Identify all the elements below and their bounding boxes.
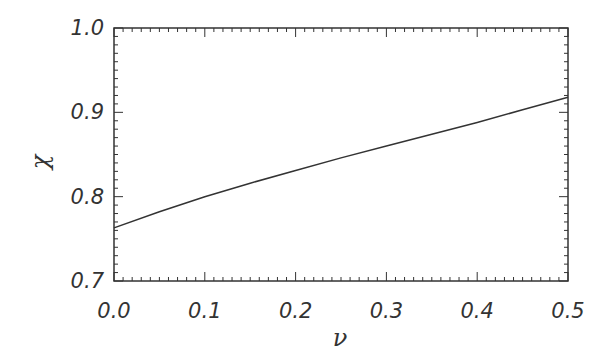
x-tick-labels: 0.00.10.20.30.40.5	[97, 299, 584, 323]
y-tick-labels: 0.70.80.91.0	[71, 16, 105, 293]
x-tick-label: 0.2	[279, 299, 312, 323]
y-tick-label: 0.8	[71, 185, 104, 209]
y-tick-label: 0.9	[71, 100, 104, 124]
y-tick-label: 0.7	[71, 269, 105, 293]
x-tick-label: 0.1	[188, 299, 221, 323]
x-tick-label: 0.0	[97, 299, 130, 323]
line-chart: 0.00.10.20.30.40.5 0.70.80.91.0 ν χ	[0, 0, 615, 359]
x-axis-title: ν	[333, 324, 348, 352]
plot-frame	[114, 28, 568, 281]
y-axis-title: χ	[26, 153, 54, 171]
x-tick-label: 0.5	[551, 299, 584, 323]
axis-ticks	[114, 28, 568, 281]
x-tick-label: 0.3	[370, 299, 403, 323]
x-tick-label: 0.4	[460, 299, 493, 323]
data-line	[114, 97, 568, 228]
y-tick-label: 1.0	[71, 16, 104, 40]
